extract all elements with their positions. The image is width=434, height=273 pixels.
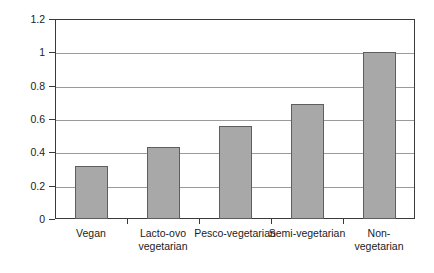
bar — [291, 104, 324, 219]
x-axis-label-line: Non-vegetarian — [352, 227, 407, 252]
x-axis-label: Lacto-ovovegetarian — [138, 227, 187, 252]
x-axis-label-line: Vegan — [76, 227, 106, 240]
x-axis-label: Vegan — [76, 227, 106, 240]
y-axis-label: 0.6 — [0, 113, 45, 125]
y-axis-label: 0.8 — [0, 80, 45, 92]
bar-chart-figure: Odds Ratio for Type 2 Diabetes 00.20.40.… — [0, 0, 434, 273]
bar — [147, 147, 180, 219]
x-axis-label: Pesco-vegetarian — [194, 227, 276, 240]
y-axis-label: 1.2 — [0, 13, 45, 25]
y-axis-tick — [49, 219, 55, 220]
bar — [363, 52, 396, 219]
x-axis-tick — [271, 219, 272, 224]
x-axis-label: Semi-vegetarian — [269, 227, 345, 240]
x-axis-label-line: Pesco-vegetarian — [194, 227, 276, 240]
x-axis-label-line: Lacto-ovo — [138, 227, 187, 240]
bar — [75, 166, 108, 219]
y-axis-label: 0.2 — [0, 180, 45, 192]
x-axis-tick — [127, 219, 128, 224]
y-axis-label: 0.4 — [0, 146, 45, 158]
x-axis-label-line: vegetarian — [138, 240, 187, 253]
x-axis-label-line: Semi-vegetarian — [269, 227, 345, 240]
x-axis-tick — [199, 219, 200, 224]
bars-layer — [55, 19, 415, 219]
x-axis-tick — [343, 219, 344, 224]
y-axis-label: 0 — [0, 213, 45, 225]
bar — [219, 126, 252, 219]
x-axis-label: Non-vegetarian — [352, 227, 407, 252]
y-axis-label: 1 — [0, 46, 45, 58]
